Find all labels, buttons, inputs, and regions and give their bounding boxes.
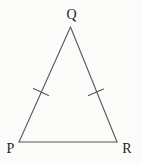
side-pq bbox=[19, 27, 71, 142]
equal-tick-pq bbox=[34, 89, 49, 96]
vertex-label-p: P bbox=[7, 141, 15, 156]
side-qr bbox=[71, 27, 118, 142]
triangle-figure: Q P R bbox=[0, 0, 142, 164]
vertex-label-q: Q bbox=[66, 7, 76, 22]
triangle-diagram: Q P R bbox=[0, 0, 142, 164]
vertex-label-r: R bbox=[122, 141, 132, 156]
